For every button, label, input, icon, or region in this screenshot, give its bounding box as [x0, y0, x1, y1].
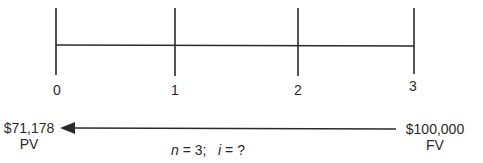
equation-text: n = 3; i = ?	[171, 142, 245, 158]
n-value: = 3;	[179, 142, 207, 158]
arrow-head-icon	[60, 122, 75, 134]
present-value-group: $71,178 PV	[4, 120, 55, 152]
future-value-label: FV	[406, 137, 464, 153]
future-value-group: $100,000 FV	[406, 121, 464, 153]
present-value-amount: $71,178	[4, 120, 55, 136]
n-variable: n	[171, 142, 179, 158]
period-label-1: 1	[171, 82, 179, 98]
period-label-3: 3	[409, 78, 417, 94]
period-label-0: 0	[53, 82, 61, 98]
i-value: = ?	[221, 142, 245, 158]
future-value-amount: $100,000	[406, 121, 464, 137]
timeline-axis	[56, 45, 414, 46]
present-value-label: PV	[4, 136, 55, 152]
discount-arrow-line	[72, 128, 396, 129]
period-label-2: 2	[294, 82, 302, 98]
